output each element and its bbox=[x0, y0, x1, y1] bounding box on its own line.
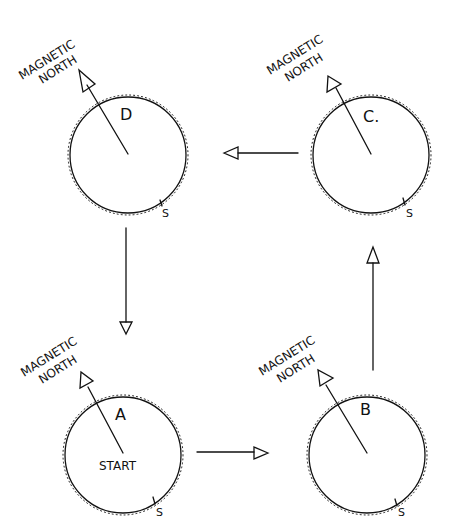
compass-c bbox=[311, 76, 431, 215]
arrow-b-to-c bbox=[367, 247, 379, 370]
arrow-d-to-a bbox=[120, 228, 132, 334]
arrow-c-to-d bbox=[224, 147, 298, 159]
south-label: S bbox=[156, 506, 163, 519]
compass-label: C. bbox=[363, 107, 379, 126]
north-arrowhead-icon bbox=[80, 372, 93, 388]
south-label: S bbox=[162, 207, 169, 220]
south-tick bbox=[153, 497, 155, 504]
arrowhead-right-icon bbox=[254, 447, 268, 459]
compass-label: B bbox=[360, 400, 371, 419]
south-label: S bbox=[398, 506, 405, 519]
arrowhead-up-icon bbox=[367, 247, 379, 263]
compass-label: D bbox=[120, 105, 132, 124]
south-label: S bbox=[406, 207, 413, 220]
start-label: START bbox=[99, 459, 137, 473]
arrowhead-down-icon bbox=[120, 322, 132, 334]
north-arrowhead-icon bbox=[79, 70, 95, 92]
compass-b bbox=[307, 370, 427, 515]
arrowhead-left-icon bbox=[224, 147, 238, 159]
north-arrowhead-icon bbox=[327, 76, 341, 92]
compass-diagram: MAGNETIC NORTH D S MAGNETIC NORTH C. S M… bbox=[0, 0, 450, 532]
north-arrowhead-icon bbox=[318, 370, 333, 386]
compass-label: A bbox=[115, 405, 126, 424]
compass-a bbox=[63, 372, 183, 515]
compass-d bbox=[68, 70, 188, 215]
arrow-a-to-b bbox=[197, 447, 268, 459]
